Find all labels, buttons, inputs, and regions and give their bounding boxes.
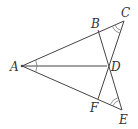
label-d: D (110, 60, 121, 74)
label-f: F (89, 101, 99, 115)
label-c: C (121, 6, 130, 20)
geometry-diagram: A B C D F E (0, 0, 138, 129)
angle-mark-e-inner (113, 100, 119, 106)
label-b: B (90, 17, 100, 31)
vertex-points (21, 65, 24, 68)
label-e: E (118, 113, 128, 127)
label-a: A (9, 60, 19, 74)
segment-ac (22, 21, 124, 66)
point-a-dot (21, 65, 24, 68)
angle-mark-c-inner (115, 25, 121, 31)
